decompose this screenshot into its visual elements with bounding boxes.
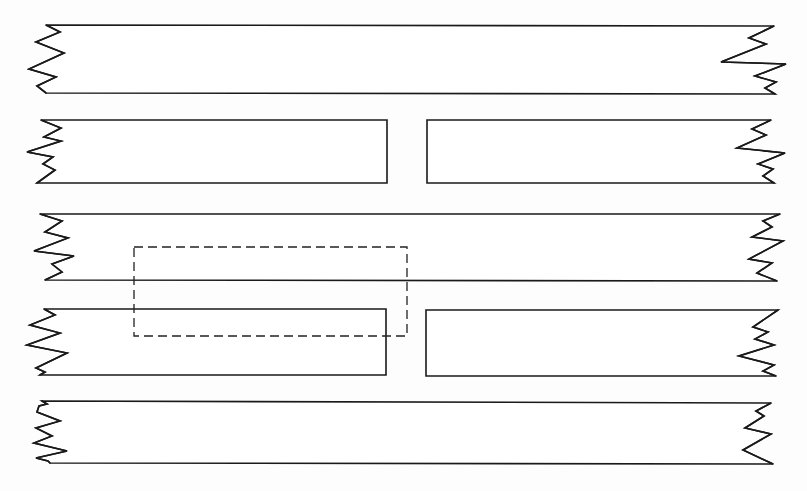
strip-outline [34, 214, 783, 281]
strip-outline [29, 25, 786, 94]
strip-left-segment [27, 309, 386, 375]
strip-diagram [0, 0, 807, 491]
diagram-canvas [0, 0, 807, 491]
strip-2 [27, 120, 785, 183]
strip-1 [29, 25, 786, 94]
strip-3 [34, 214, 783, 281]
strip-outline [34, 401, 773, 464]
strip-5 [34, 401, 773, 464]
strip-4 [27, 309, 778, 376]
strip-right-segment [427, 120, 785, 183]
strip-left-segment [27, 120, 387, 183]
strip-right-segment [426, 310, 778, 376]
strips-layer [27, 25, 786, 464]
